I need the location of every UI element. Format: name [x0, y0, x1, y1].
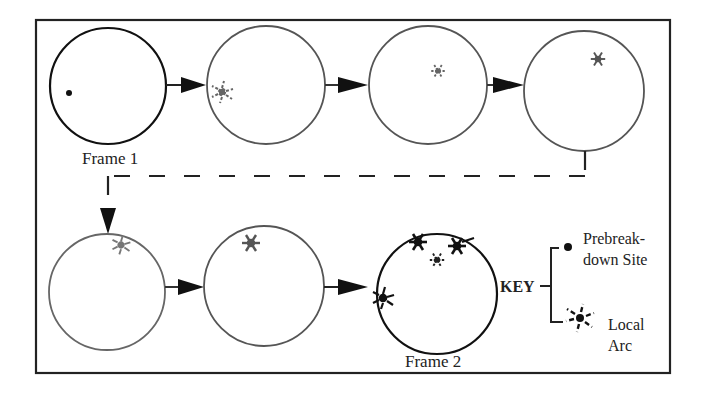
- arrow-right-icon: [166, 77, 206, 93]
- frame-circle-5: [49, 234, 165, 350]
- key-item-prebreakdown-line2: down Site: [583, 251, 647, 268]
- local-arc-star-icon: [242, 235, 260, 251]
- arrow-right-icon: [324, 279, 368, 295]
- key-prebreakdown-dot-icon: [564, 243, 572, 251]
- arrow-right-icon: [487, 77, 524, 93]
- frame-circle-3: [369, 26, 487, 144]
- frame-circle-4: [524, 31, 644, 151]
- local-arc-star-icon: [212, 81, 233, 103]
- discharge-sequence-diagram: Frame 1 Frame 2 KEY: [0, 0, 707, 394]
- key-item-local-arc-line1: Local: [608, 316, 645, 333]
- prebreakdown-site-dot-icon: [66, 90, 72, 96]
- key-title: KEY: [500, 278, 535, 295]
- frame-circle-7: [377, 234, 497, 354]
- arrow-right-icon: [165, 279, 204, 295]
- frame-circle-2: [207, 26, 325, 144]
- arrow-right-icon: [325, 77, 368, 93]
- arrow-down-icon: [100, 208, 116, 234]
- local-arc-star-icon: [591, 53, 605, 66]
- diagram-border: [36, 20, 670, 373]
- local-arc-star-icon: [430, 254, 444, 267]
- frame-circle-1: [50, 28, 166, 144]
- frame-circle-6: [204, 226, 324, 346]
- frame-1-label: Frame 1: [82, 149, 138, 168]
- local-arc-star-icon: [431, 65, 445, 77]
- key-item-local-arc-line2: Arc: [608, 337, 632, 354]
- key-item-prebreakdown-line1: Prebreak-: [583, 230, 645, 247]
- frame-2-label: Frame 2: [405, 352, 461, 371]
- key-local-arc-icon: [566, 304, 594, 332]
- key-bracket: [540, 248, 563, 322]
- dashed-connector: [108, 151, 585, 195]
